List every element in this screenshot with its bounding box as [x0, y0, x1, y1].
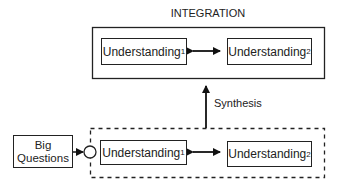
exploration-understanding-1: Understanding1 [100, 140, 187, 165]
subscript: 2 [306, 150, 310, 159]
understanding-text: Understanding [228, 147, 306, 161]
big-questions-line1: Big [35, 139, 52, 152]
subscript: 1 [180, 148, 184, 157]
big-questions-box: Big Questions [13, 135, 73, 168]
integration-understanding-2: Understanding2 [227, 38, 312, 65]
exploration-understanding-2: Understanding2 [227, 141, 312, 167]
integration-understanding-1: Understanding1 [101, 38, 187, 65]
entry-circle [84, 146, 96, 158]
big-questions-line2: Questions [17, 152, 69, 165]
subscript: 2 [306, 47, 310, 56]
understanding-text: Understanding [103, 45, 181, 59]
subscript: 1 [181, 47, 185, 56]
understanding-text: Understanding [102, 146, 180, 160]
integration-title: INTEGRATION [0, 7, 338, 19]
synthesis-label: Synthesis [214, 97, 262, 109]
understanding-text: Understanding [228, 45, 306, 59]
